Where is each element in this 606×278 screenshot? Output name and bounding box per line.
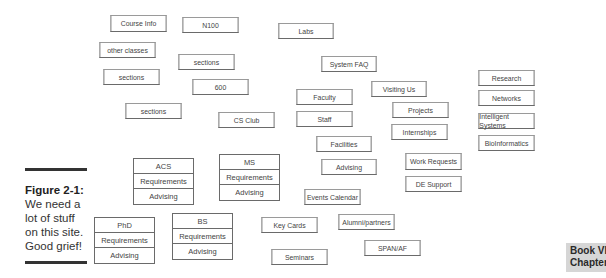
box-sections-1: sections — [178, 54, 234, 70]
stack-cell: PhD — [95, 218, 154, 233]
stack-bs: BSRequirementsAdvising — [172, 213, 233, 260]
box-bioinformatics: BioInformatics — [478, 135, 534, 151]
box-networks: Networks — [478, 90, 534, 106]
box-key-cards: Key Cards — [261, 217, 317, 233]
box-sections-2: sections — [103, 69, 159, 85]
stack-cell: ACS — [134, 159, 193, 174]
stack-phd: PhDRequirementsAdvising — [94, 217, 155, 264]
box-staff: Staff — [296, 111, 352, 127]
stack-cell: Requirements — [173, 229, 232, 244]
chapter-label: Chapter 2 — [570, 257, 606, 269]
caption-line: Good grief! — [25, 239, 87, 253]
caption-line: We need a — [25, 197, 87, 211]
stack-cell: BS — [173, 214, 232, 229]
book-label: Book VIII — [570, 245, 606, 257]
stack-cell: Advising — [220, 185, 279, 200]
stack-cell: Requirements — [220, 170, 279, 185]
box-n100: N100 — [182, 17, 238, 33]
box-research: Research — [478, 70, 534, 86]
figure-title: Figure 2-1: — [25, 183, 87, 197]
box-internships: Internships — [391, 124, 447, 140]
box-de-support: DE Support — [405, 176, 461, 192]
caption-line: lot of stuff — [25, 211, 87, 225]
box-intelligent-systems: Intelligent Systems — [478, 113, 534, 129]
box-labs: Labs — [278, 23, 333, 39]
box-alumni-partners: Alumni/partners — [338, 214, 394, 230]
stack-cell: MS — [220, 155, 279, 170]
book-chapter-tab: Book VIII Chapter 2 — [566, 243, 606, 272]
stack-cell: Advising — [173, 244, 232, 259]
box-other-classes: other classes — [99, 42, 155, 58]
stack-cell: Advising — [134, 189, 193, 204]
box-cs-club: CS Club — [218, 112, 274, 128]
box-facilities: Facilities — [316, 136, 371, 152]
stack-cell: Requirements — [95, 233, 154, 248]
box-600: 600 — [192, 79, 248, 95]
box-system-faq: System FAQ — [321, 56, 376, 72]
caption-top-rule — [25, 168, 87, 171]
caption-line: on this site. — [25, 225, 87, 239]
box-span-af: SPAN/AF — [364, 240, 420, 256]
box-visiting-us: Visiting Us — [371, 81, 426, 97]
stack-acs: ACSRequirementsAdvising — [133, 158, 194, 205]
box-faculty: Faculty — [296, 89, 352, 105]
box-projects: Projects — [392, 102, 448, 118]
caption-bottom-rule — [25, 261, 87, 264]
box-sections-3: sections — [125, 103, 181, 119]
stack-cell: Advising — [95, 248, 154, 263]
box-seminars: Seminars — [271, 249, 327, 265]
box-work-requests: Work Requests — [405, 153, 461, 170]
figure-caption: Figure 2-1: We need a lot of stuff on th… — [25, 168, 87, 264]
box-course-info: Course Info — [110, 15, 166, 32]
stack-cell: Requirements — [134, 174, 193, 189]
stack-ms: MSRequirementsAdvising — [219, 154, 280, 201]
box-advising: Advising — [321, 159, 376, 175]
box-events-calendar: Events Calendar — [304, 189, 360, 205]
